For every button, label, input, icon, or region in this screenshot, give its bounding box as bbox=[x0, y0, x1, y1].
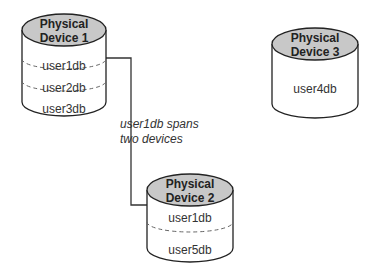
span-annotation-line1: user1db spans bbox=[120, 117, 199, 131]
physical-device-2: Physical Device 2 user1db user5db bbox=[147, 174, 233, 262]
device-2-title-line2: Device 2 bbox=[166, 191, 215, 205]
device-1-segment-user1db: user1db bbox=[42, 59, 86, 73]
physical-device-1: Physical Device 1 user1db user2db user3d… bbox=[22, 14, 106, 116]
device-2-segment-user1db: user1db bbox=[168, 211, 212, 225]
device-3-title-line2: Device 3 bbox=[291, 45, 340, 59]
device-2-title-line1: Physical bbox=[166, 177, 215, 191]
device-2-segment-user5db: user5db bbox=[168, 243, 212, 257]
device-3-title-line1: Physical bbox=[291, 31, 340, 45]
device-1-segment-user2db: user2db bbox=[42, 81, 86, 95]
device-3-segment-user4db: user4db bbox=[293, 82, 337, 96]
device-1-segment-user3db: user3db bbox=[42, 102, 86, 116]
diagram-canvas: Physical Device 1 user1db user2db user3d… bbox=[0, 0, 370, 276]
span-annotation-line2: two devices bbox=[120, 132, 183, 146]
device-1-title-line2: Device 1 bbox=[40, 31, 89, 45]
device-1-title-line1: Physical bbox=[40, 17, 89, 31]
physical-device-3: Physical Device 3 user4db bbox=[272, 28, 358, 118]
